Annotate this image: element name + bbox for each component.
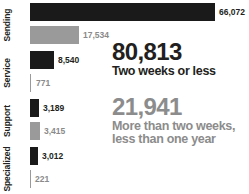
bar-sending-two-weeks-or-less[interactable] xyxy=(30,3,215,21)
bar-row-specialized-dark: 3,012 xyxy=(30,147,249,165)
bar-support-more-than-two-weeks[interactable] xyxy=(30,122,40,140)
bar-value-service-two-weeks-or-less: 8,540 xyxy=(58,51,79,69)
bar-value-specialized-two-weeks-or-less: 3,012 xyxy=(42,147,63,165)
summary-panel: 80,813 Two weeks or less 21,941 More tha… xyxy=(112,40,249,147)
bar-sending-more-than-two-weeks[interactable] xyxy=(30,26,79,44)
summary-block-more-than-two-weeks: 21,941 More than two weeks, less than on… xyxy=(112,95,249,147)
summary-caption-line: More than two weeks, xyxy=(112,120,249,134)
category-label-support: Support xyxy=(0,98,14,144)
bar-value-service-more-than-two-weeks: 771 xyxy=(36,74,50,92)
category-label-sending: Sending xyxy=(0,2,14,48)
summary-number-two-weeks-or-less: 80,813 xyxy=(112,40,249,64)
bar-service-two-weeks-or-less[interactable] xyxy=(30,51,54,69)
summary-caption-more-than-two-weeks: More than two weeks, less than one year xyxy=(112,120,249,147)
bar-row-specialized-light: 221 xyxy=(30,170,249,188)
bar-support-two-weeks-or-less[interactable] xyxy=(30,99,39,117)
bar-service-more-than-two-weeks[interactable] xyxy=(30,74,31,92)
summary-block-two-weeks-or-less: 80,813 Two weeks or less xyxy=(112,40,249,79)
bar-specialized-two-weeks-or-less[interactable] xyxy=(30,147,38,165)
bar-specialized-more-than-two-weeks[interactable] xyxy=(30,170,31,188)
summary-caption-two-weeks-or-less: Two weeks or less xyxy=(112,65,249,79)
category-label-specialized: Specialized xyxy=(0,146,14,192)
bar-row-sending-dark: 66,072 xyxy=(30,3,249,21)
bars-specialized: 3,012 221 xyxy=(30,146,249,192)
bar-value-sending-more-than-two-weeks: 17,534 xyxy=(83,26,109,44)
bar-value-sending-two-weeks-or-less: 66,072 xyxy=(219,3,245,21)
infographic-bar-chart: Sending 66,072 17,534 Service 8,540 xyxy=(0,0,249,194)
bar-value-specialized-more-than-two-weeks: 221 xyxy=(35,170,49,188)
category-label-service: Service xyxy=(0,50,14,96)
summary-caption-line: Two weeks or less xyxy=(112,65,249,79)
summary-caption-line: less than one year xyxy=(112,133,249,147)
bar-value-support-more-than-two-weeks: 3,415 xyxy=(44,122,65,140)
bar-group-specialized: Specialized 3,012 221 xyxy=(0,146,249,192)
summary-number-more-than-two-weeks: 21,941 xyxy=(112,95,249,119)
bar-value-support-two-weeks-or-less: 3,189 xyxy=(43,99,64,117)
